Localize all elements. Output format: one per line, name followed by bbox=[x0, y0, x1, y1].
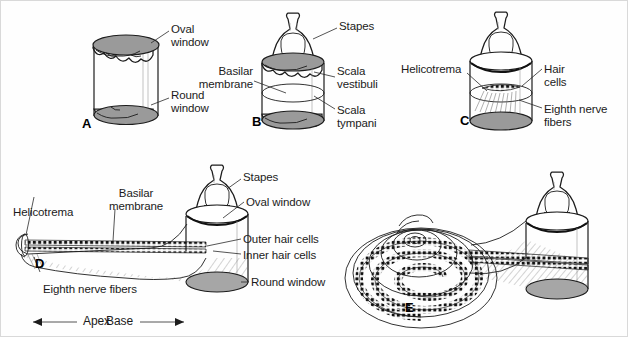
label-round-window-d: Round window bbox=[251, 276, 325, 289]
panel-e-coiled-cochlea bbox=[345, 172, 588, 328]
label-oval-window-d: Oval window bbox=[246, 196, 310, 209]
label-hair-cells-c: Hair cells bbox=[544, 63, 567, 88]
panel-b-drum bbox=[254, 13, 337, 129]
label-stapes-b: Stapes bbox=[339, 20, 374, 33]
leader-oval-window-a bbox=[151, 31, 169, 43]
figure-canvas: Oval window Round window A Stapes Basila… bbox=[0, 0, 628, 337]
hair-cells-c bbox=[482, 85, 520, 91]
oval-window-membrane bbox=[93, 35, 159, 62]
label-outer-hair-cells-d: Outer hair cells bbox=[243, 233, 319, 246]
leader-basilar-d bbox=[113, 209, 115, 241]
label-scala-vestibuli-b: Scala vestibuli bbox=[337, 65, 378, 90]
panel-letter-e: E bbox=[405, 300, 414, 315]
inner-hair-cells-band bbox=[25, 247, 206, 253]
leader-nerve-c bbox=[519, 100, 542, 108]
basilar-membrane-b bbox=[262, 84, 324, 102]
label-base: Base bbox=[106, 315, 133, 328]
hair-cell-bands-d bbox=[25, 240, 206, 253]
oval-window-c bbox=[470, 52, 532, 72]
label-oval-window-a: Oval window bbox=[171, 23, 209, 48]
label-helicotrema-d: Helicotrema bbox=[13, 206, 73, 219]
oval-window-e bbox=[526, 212, 588, 232]
eighth-nerve-fibers-c bbox=[475, 91, 516, 114]
leader-stapes-b bbox=[313, 28, 337, 39]
oval-window-d bbox=[186, 205, 248, 225]
round-window-c bbox=[470, 112, 532, 130]
leader-outer-hair-cells-d bbox=[207, 239, 241, 246]
round-window-e bbox=[526, 279, 588, 299]
panel-c-drum bbox=[467, 12, 542, 130]
label-basilar-membrane-b: Basilar membrane bbox=[179, 65, 253, 90]
leader-stapes-d bbox=[227, 179, 241, 189]
label-helicotrema-c: Helicotrema bbox=[401, 63, 461, 76]
round-window-d bbox=[186, 272, 248, 292]
leader-round-window-a bbox=[151, 98, 169, 105]
oval-window-b bbox=[262, 53, 324, 77]
round-window-membrane bbox=[94, 106, 158, 125]
panel-letter-a: A bbox=[82, 116, 91, 131]
label-scala-tympani-b: Scala tympani bbox=[337, 104, 377, 129]
panel-letter-c: C bbox=[460, 113, 469, 128]
round-window-b bbox=[262, 111, 324, 129]
label-round-window-a: Round window bbox=[171, 89, 209, 114]
leader-basilar-b bbox=[254, 81, 286, 93]
label-eighth-nerve-fibers-d: Eighth nerve fibers bbox=[43, 283, 137, 296]
panel-letter-b: B bbox=[252, 114, 261, 129]
label-eighth-nerve-fibers-c: Eighth nerve fibers bbox=[544, 103, 607, 128]
label-basilar-membrane-d: Basilar membrane bbox=[109, 187, 163, 212]
panel-letter-d: D bbox=[35, 256, 44, 271]
panel-a-drum bbox=[93, 31, 169, 125]
label-stapes-d: Stapes bbox=[243, 171, 278, 184]
cochlear-spiral-coils bbox=[359, 215, 479, 317]
label-inner-hair-cells-d: Inner hair cells bbox=[243, 249, 316, 262]
outer-hair-cells-band bbox=[25, 240, 206, 247]
